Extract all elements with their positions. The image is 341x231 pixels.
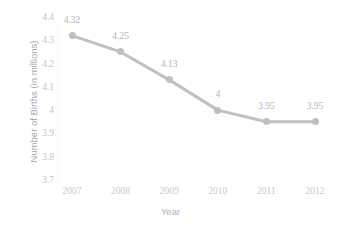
data-point-label: 4.32 [64,15,81,25]
y-axis-tick-label: 3.7 [28,175,54,185]
series-line [58,10,335,187]
line-chart: Number of Births (in millions) 4.44.34.2… [0,0,341,231]
y-axis-tick-label: 3.8 [28,152,54,162]
y-axis-tick-label: 3.9 [28,128,54,138]
y-axis-tick-label: 4.3 [28,35,54,45]
data-point-marker [69,32,76,39]
data-point-marker [312,118,319,125]
x-axis-title: Year [0,206,341,217]
series-polyline [72,36,315,122]
x-axis-tick-label: 2010 [208,186,227,197]
x-axis-tick-label: 2009 [160,186,179,197]
x-axis-tick-label: 2012 [306,186,325,197]
y-axis-tick-label: 4.2 [28,59,54,69]
data-point-label: 4.25 [112,31,129,41]
y-axis-tick-label: 4.4 [28,12,54,22]
x-axis-tick-label: 2011 [257,186,276,197]
x-axis-tick-label: 2008 [111,186,130,197]
plot-area: 4.324.254.1343.953.95 [58,10,335,187]
data-point-label: 4 [215,89,220,99]
x-axis-tick-labels: 200720082009201020112012 [0,186,341,200]
data-point-label: 4.13 [161,59,178,69]
y-axis-tick-label: 4.1 [28,82,54,92]
y-axis-tick-label: 4 [28,105,54,115]
x-axis-tick-label: 2007 [63,186,82,197]
data-point-label: 3.95 [307,101,324,111]
data-point-label: 3.95 [258,101,275,111]
data-point-marker [214,107,221,114]
